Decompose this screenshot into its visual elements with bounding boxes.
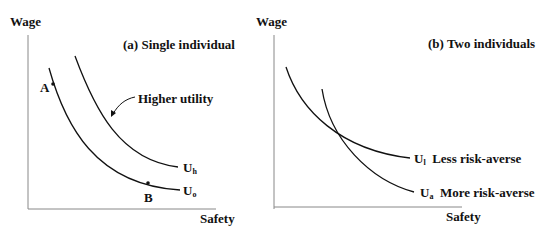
higher-utility-arrow: [113, 97, 135, 114]
panel-a-title: (a) Single individual: [123, 37, 235, 53]
point-b-label: B: [144, 190, 153, 206]
curve-u-l: [286, 67, 410, 158]
panel-b-title: (b) Two individuals: [428, 36, 535, 52]
curve-u-o: [49, 68, 180, 190]
panel-b-x-axis-label: Safety: [446, 209, 481, 225]
point-a-label: A: [40, 80, 49, 96]
panel-b-axes: [274, 35, 462, 209]
point-b-marker: [146, 181, 150, 185]
curve-u-o-label: Uo: [183, 183, 196, 199]
curve-u-a-label: Ua More risk-averse: [420, 185, 535, 201]
curve-u-a: [322, 89, 414, 192]
panel-a-y-axis-label: Wage: [10, 14, 41, 30]
curve-u-h-label: Uh: [183, 160, 197, 176]
higher-utility-label: Higher utility: [138, 91, 213, 107]
point-a-marker: [51, 82, 55, 86]
panel-b-y-axis-label: Wage: [256, 14, 287, 30]
curve-u-l-label: Ul Less risk-averse: [414, 151, 521, 167]
panel-a-x-axis-label: Safety: [200, 211, 235, 227]
